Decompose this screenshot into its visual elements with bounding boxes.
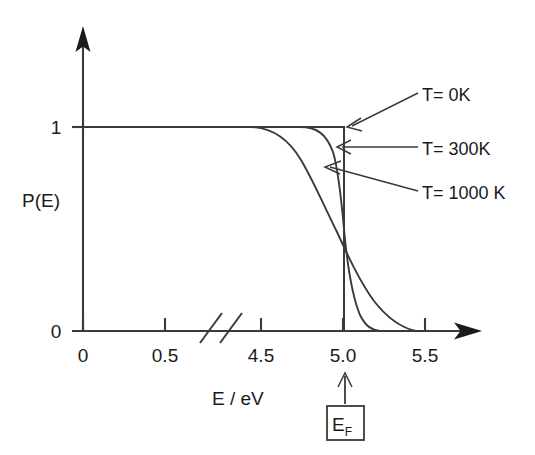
- curve-t0k-path: [83, 127, 344, 331]
- series-curve-0k: [83, 127, 344, 331]
- series-label-t0k: T= 0K: [422, 85, 471, 105]
- axis-break-slash-1: [200, 313, 222, 343]
- x-axis-break: [200, 313, 242, 343]
- series-curve-1000k: [83, 127, 445, 331]
- figure-root: T= 0K T= 300K T= 1000 K 1 0 P(E) 0 0.5 4…: [0, 0, 535, 455]
- x-tick-label-5-5: 5.5: [412, 345, 438, 366]
- y-tick-label-1: 1: [51, 117, 62, 138]
- leader-t300k: [337, 140, 418, 154]
- fermi-level-marker: EF: [327, 373, 364, 440]
- fermi-label: EF: [332, 414, 352, 439]
- leader-line-t0k: [352, 93, 418, 126]
- x-tick-label-5-0: 5.0: [330, 345, 356, 366]
- x-tick-label-0-5: 0.5: [152, 345, 178, 366]
- fermi-dirac-distribution-chart: T= 0K T= 300K T= 1000 K 1 0 P(E) 0 0.5 4…: [0, 0, 535, 455]
- curve-t1000k-path: [83, 127, 445, 331]
- y-axis-title: P(E): [22, 190, 60, 211]
- fermi-subscript: F: [345, 425, 352, 439]
- y-tick-label-0: 0: [51, 321, 62, 342]
- series-label-t1000k: T= 1000 K: [422, 183, 506, 203]
- x-tick-label-4-5: 4.5: [248, 345, 274, 366]
- x-axis-title: E / eV: [212, 388, 264, 409]
- x-tick-label-0: 0: [78, 345, 89, 366]
- axes-group: [72, 26, 482, 340]
- series-label-t300k: T= 300K: [422, 139, 491, 159]
- leader-t0k: [347, 93, 418, 131]
- axis-break-slash-2: [220, 313, 242, 343]
- fermi-symbol: E: [332, 414, 345, 435]
